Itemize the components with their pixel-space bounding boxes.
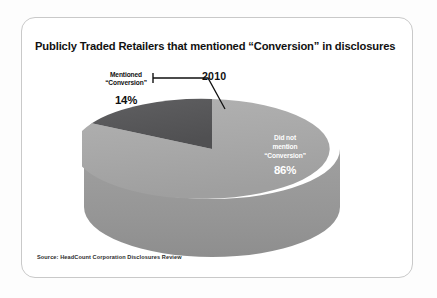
callout-did-not-value: 86%	[230, 164, 340, 176]
callout-did-not-line1: Did not	[274, 134, 296, 141]
callout-mentioned-line2: “Conversion”	[105, 79, 147, 86]
chart-card: Publicly Traded Retailers that mentioned…	[21, 17, 413, 278]
callout-mentioned-value: 14%	[91, 94, 161, 106]
pie-chart: Mentioned “Conversion” 14% 2010 Did not …	[22, 18, 414, 279]
callout-did-not-mention: Did not mention “Conversion”	[230, 133, 340, 161]
callout-mentioned: Mentioned “Conversion”	[85, 71, 167, 88]
callout-did-not-line3: “Conversion”	[264, 152, 306, 159]
year-label: 2010	[202, 70, 262, 82]
slide-canvas: Publicly Traded Retailers that mentioned…	[0, 0, 437, 298]
callout-mentioned-line1: Mentioned	[110, 71, 142, 78]
callout-did-not-line2: mention	[273, 143, 298, 150]
source-note: Source: HeadCount Corporation Disclosure…	[37, 254, 182, 260]
